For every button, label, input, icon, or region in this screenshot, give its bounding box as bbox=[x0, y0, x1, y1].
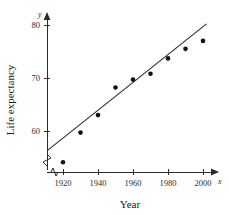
data-point bbox=[113, 85, 118, 90]
trend-line bbox=[47, 24, 206, 151]
data-point-group bbox=[61, 39, 206, 165]
data-point bbox=[78, 130, 83, 135]
x-tick-label-1920: 1920 bbox=[55, 178, 72, 188]
y-tick-label-60: 60 bbox=[32, 126, 41, 136]
x-axis-title: Year bbox=[120, 198, 141, 210]
life-expectancy-scatter-chart: 80 70 60 1920 1940 1960 1980 2000 y x Li… bbox=[0, 0, 229, 215]
y-tick-label-70: 70 bbox=[32, 73, 41, 83]
data-point bbox=[166, 56, 171, 61]
y-axis-variable-label: y bbox=[37, 10, 42, 19]
x-axis-arrow-icon bbox=[211, 169, 219, 176]
x-tick-label-1980: 1980 bbox=[160, 178, 177, 188]
y-axis-title: Life expectancy bbox=[4, 64, 16, 135]
x-tick-label-1960: 1960 bbox=[125, 178, 142, 188]
x-tick-label-2000: 2000 bbox=[195, 178, 212, 188]
x-tick-label-1940: 1940 bbox=[90, 178, 107, 188]
data-point bbox=[96, 113, 101, 118]
y-tick-label-80: 80 bbox=[32, 20, 41, 30]
data-point bbox=[148, 71, 153, 76]
data-point bbox=[61, 160, 66, 165]
data-point bbox=[183, 47, 188, 52]
data-point bbox=[131, 77, 136, 82]
data-point bbox=[201, 39, 206, 44]
chart-plot-area: 80 70 60 1920 1940 1960 1980 2000 y x Li… bbox=[0, 0, 229, 215]
x-axis-variable-label: x bbox=[217, 177, 222, 186]
y-axis-arrow-icon bbox=[44, 12, 51, 20]
